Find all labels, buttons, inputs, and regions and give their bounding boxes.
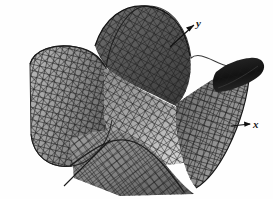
axis-label-x: x bbox=[253, 119, 259, 130]
axis-label-y: y bbox=[196, 18, 201, 29]
surface-plot-figure: y x bbox=[0, 0, 273, 199]
surface-plot-canvas bbox=[0, 0, 273, 199]
